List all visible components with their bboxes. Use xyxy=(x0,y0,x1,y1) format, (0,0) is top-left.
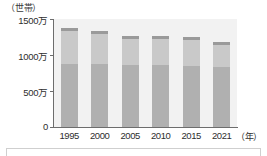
bar-segment-lower-2021 xyxy=(213,67,230,127)
x-axis-tick-label-2000: 2000 xyxy=(83,130,117,141)
bar-segment-lower-2000 xyxy=(91,64,108,127)
bottom-divider-right-cap xyxy=(260,148,261,156)
bar-2015 xyxy=(183,37,200,127)
bottom-divider xyxy=(6,148,261,149)
y-axis-tick-label-1500: 1500万 xyxy=(18,13,48,27)
x-axis-tick-label-2005: 2005 xyxy=(113,130,147,141)
bar-2021 xyxy=(213,42,230,127)
bar-segment-upper-2005 xyxy=(122,39,139,66)
y-axis-tick-500 xyxy=(50,91,54,92)
y-axis-tick-label-0: 0 xyxy=(43,121,48,132)
bar-segment-upper-1995 xyxy=(61,31,78,63)
bar-2005 xyxy=(122,36,139,127)
x-axis-unit-label: （年） xyxy=(236,130,262,143)
x-axis-tick-label-2015: 2015 xyxy=(174,130,208,141)
bar-segment-upper-2000 xyxy=(91,34,108,64)
bar-segment-lower-2015 xyxy=(183,66,200,127)
bar-segment-lower-1995 xyxy=(61,64,78,127)
bar-segment-lower-2010 xyxy=(152,65,169,127)
y-axis-tick-label-500: 500万 xyxy=(23,85,48,99)
bar-segment-upper-2015 xyxy=(183,40,200,66)
bottom-divider-left-cap xyxy=(6,148,7,156)
y-axis-line xyxy=(53,19,54,128)
y-axis-tick-1000 xyxy=(50,55,54,56)
bar-2000 xyxy=(91,31,108,127)
bars-container xyxy=(54,19,237,127)
y-axis-tick-0 xyxy=(50,127,54,128)
bar-1995 xyxy=(61,28,78,127)
plot-area xyxy=(54,19,237,127)
y-axis-tick-label-1000: 1000万 xyxy=(18,49,48,63)
x-axis-tick-label-2021: 2021 xyxy=(205,130,239,141)
bar-segment-upper-2021 xyxy=(213,45,230,66)
bar-segment-upper-2010 xyxy=(152,39,169,66)
x-axis-line xyxy=(53,127,238,128)
x-axis-tick-label-2010: 2010 xyxy=(144,130,178,141)
y-axis-tick-1500 xyxy=(50,19,54,20)
bar-2010 xyxy=(152,36,169,127)
bar-chart: （世帯） 0500万1000万1500万 1995200020052010201… xyxy=(0,0,267,156)
x-axis-tick-label-1995: 1995 xyxy=(52,130,86,141)
bar-segment-lower-2005 xyxy=(122,65,139,127)
